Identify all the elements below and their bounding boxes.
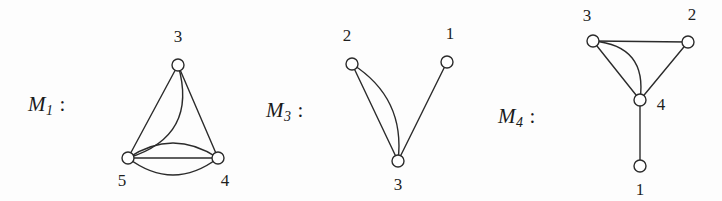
vertex-label-4: 4	[657, 95, 666, 115]
vertex-3	[587, 35, 599, 47]
graph-label-colon: :	[60, 92, 66, 116]
vertex-3	[172, 59, 184, 71]
graph-label-colon: :	[530, 104, 536, 128]
vertex-label-3: 3	[583, 6, 592, 26]
edge-3-4	[593, 41, 640, 100]
vertex-label-5: 5	[118, 171, 127, 191]
edge-3-2	[593, 41, 688, 42]
vertex-2	[682, 36, 694, 48]
edge-1-3	[398, 62, 447, 161]
vertex-label-2: 2	[343, 26, 352, 46]
edges-layer	[128, 41, 688, 175]
edge-3-5	[128, 65, 178, 158]
vertex-4	[212, 152, 224, 164]
graph-label-main: M	[28, 92, 46, 116]
graph-label-subscript: 1	[46, 103, 54, 118]
graph-label-main: M	[498, 104, 516, 128]
vertex-label-4: 4	[221, 171, 230, 191]
graph-label-m4: M4:	[498, 104, 536, 129]
vertex-label-1: 1	[446, 24, 455, 44]
graph-label-m3: M3:	[266, 98, 304, 123]
vertex-2	[346, 58, 358, 70]
vertex-label-3: 3	[174, 27, 183, 47]
multigraph-figure	[0, 0, 722, 201]
vertex-1	[634, 160, 646, 172]
graph-label-m1: M1:	[28, 92, 66, 117]
graph-label-colon: :	[298, 98, 304, 122]
edge-5-4	[128, 143, 218, 158]
graph-label-subscript: 3	[284, 109, 292, 124]
vertex-3	[392, 155, 404, 167]
edge-2-4	[640, 42, 688, 100]
vertex-1	[441, 56, 453, 68]
graph-label-main: M	[266, 98, 284, 122]
vertex-4	[634, 94, 646, 106]
graph-label-subscript: 4	[516, 115, 524, 130]
edge-2-3	[352, 64, 398, 161]
edge-5-4	[128, 158, 218, 175]
vertex-5	[122, 152, 134, 164]
vertex-label-2: 2	[688, 5, 697, 25]
scan-bleed-artifact	[0, 190, 722, 201]
